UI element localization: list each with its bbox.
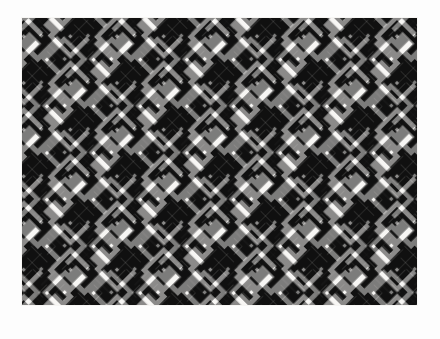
- geometric-pattern-figure: [21, 17, 418, 306]
- pattern-svg-canvas: [21, 17, 418, 306]
- page-canvas: Diagonal Greek-key meander tiling Black …: [0, 0, 440, 339]
- meander-field-counter: [21, 17, 418, 306]
